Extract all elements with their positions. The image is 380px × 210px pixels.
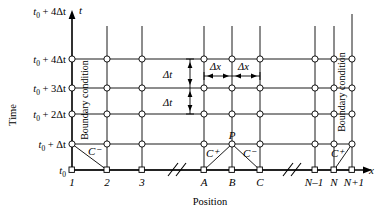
dx-arrow-l-right — [223, 74, 229, 79]
step-dimension-lines — [186, 59, 260, 114]
pos-tick-Nm1: N–1 — [304, 176, 323, 188]
node — [331, 111, 337, 117]
node — [229, 56, 235, 62]
node — [229, 85, 235, 91]
node — [201, 111, 207, 117]
node — [312, 141, 318, 147]
dt-lower-label: Δt — [162, 97, 173, 108]
node-initial — [331, 167, 336, 172]
time-tick-top: t0 + 4Δt — [33, 6, 66, 20]
node — [257, 56, 263, 62]
pos-tick-C: C — [256, 176, 264, 188]
node — [257, 85, 263, 91]
node-initial — [312, 167, 317, 172]
dt-arrow-dn-1 — [188, 79, 193, 85]
node-p — [229, 141, 235, 147]
node-initial — [201, 167, 206, 172]
node — [69, 111, 75, 117]
pos-tick-3: 3 — [138, 176, 145, 188]
dt-arrow-up-2 — [188, 91, 193, 97]
node — [349, 85, 355, 91]
pos-tick-B: B — [229, 176, 236, 188]
position-tick-labels: 1 2 3 A B C N–1 N N+1 — [69, 176, 364, 188]
figure-canvas: t x Time Position t0 + 4Δt t0 + 4Δt t0 +… — [0, 0, 380, 210]
node — [201, 141, 207, 147]
time-tick-t0: t0 — [59, 165, 66, 179]
characteristic-minus-label: C⁻ — [243, 147, 257, 159]
node — [104, 141, 110, 147]
dx-left-label: Δx — [209, 61, 221, 72]
time-tick-1dt: t0 + Δt — [38, 139, 66, 153]
node — [312, 56, 318, 62]
node — [331, 85, 337, 91]
pos-tick-2: 2 — [104, 176, 110, 188]
node — [312, 85, 318, 91]
dx-arrow-r-right — [251, 74, 257, 79]
node — [69, 141, 75, 147]
time-tick-3dt: t0 + 3Δt — [33, 83, 66, 97]
characteristics-grid-figure: t x Time Position t0 + 4Δt t0 + 4Δt t0 +… — [0, 0, 380, 210]
node-initial — [257, 167, 262, 172]
dt-arrow-up-1 — [188, 62, 193, 68]
boundary-condition-left: Boundary condition — [79, 60, 90, 140]
node — [139, 111, 145, 117]
time-tick-labels: t0 + 4Δt t0 + 4Δt t0 + 3Δt t0 + 2Δt t0 +… — [33, 6, 66, 179]
pos-tick-N: N — [329, 176, 338, 188]
y-axis-symbol: t — [79, 4, 83, 16]
node — [104, 111, 110, 117]
boundary-condition-right: Boundary condition — [336, 52, 347, 132]
pos-tick-Np1: N+1 — [343, 176, 364, 188]
node — [229, 111, 235, 117]
characteristic-plus-label: C⁺ — [206, 147, 220, 159]
x-axis-title: Position — [193, 196, 228, 207]
point-p-label: P — [228, 129, 236, 141]
node — [331, 141, 337, 147]
dt-upper-label: Δt — [162, 69, 173, 80]
node — [257, 141, 263, 147]
y-axis-arrow — [69, 10, 76, 19]
characteristic-right-label: C⁺ — [331, 147, 345, 159]
node — [69, 56, 75, 62]
dx-right-label: Δx — [237, 61, 249, 72]
dt-arrow-dn-2 — [188, 105, 193, 111]
pos-tick-A: A — [200, 176, 208, 188]
node — [349, 111, 355, 117]
time-tick-4dt: t0 + 4Δt — [33, 54, 66, 68]
node — [139, 141, 145, 147]
node — [139, 56, 145, 62]
pos-tick-1: 1 — [69, 176, 75, 188]
node — [69, 85, 75, 91]
node-initial — [69, 167, 74, 172]
node — [257, 111, 263, 117]
y-axis-title: Time — [7, 104, 18, 126]
node-initial — [139, 167, 144, 172]
node — [331, 56, 337, 62]
node — [312, 111, 318, 117]
time-tick-2dt: t0 + 2Δt — [33, 109, 66, 123]
dx-arrow-r-left — [235, 74, 241, 79]
node — [139, 85, 145, 91]
node-initial — [229, 167, 234, 172]
dx-arrow-l-left — [207, 74, 213, 79]
node — [201, 85, 207, 91]
node-initial — [104, 167, 109, 172]
node — [104, 56, 110, 62]
x-axis-symbol: x — [368, 164, 374, 176]
node — [104, 85, 110, 91]
node — [349, 141, 355, 147]
node — [349, 56, 355, 62]
node — [201, 56, 207, 62]
characteristic-left-label: C⁻ — [88, 145, 102, 157]
node-initial — [349, 167, 354, 172]
